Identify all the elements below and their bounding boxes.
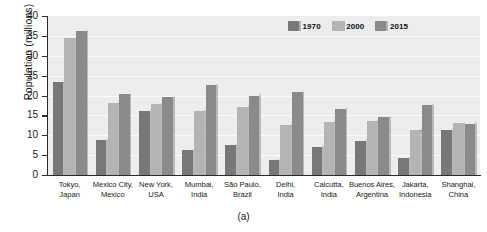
bar [422, 105, 433, 175]
bar-top-edge [389, 116, 391, 118]
bar [398, 158, 409, 175]
bar-fill [119, 94, 130, 175]
y-tick-label: 15 [14, 110, 38, 120]
bar-shadow-edge [173, 97, 175, 175]
y-tick-label: 25 [14, 71, 38, 81]
bar [410, 130, 421, 175]
legend-label: 1970 [303, 22, 321, 31]
bar-fill [151, 104, 162, 175]
bar [76, 31, 87, 175]
bar [465, 124, 476, 175]
bar-fill [335, 109, 346, 175]
bar-fill [206, 85, 217, 175]
legend-item: 1970 [288, 21, 321, 31]
bar-top-edge [346, 107, 348, 109]
x-axis-labels: Tokyo,JapanMexico City,MexicoNew York,US… [48, 180, 480, 208]
y-tick-label: 35 [14, 31, 38, 41]
x-axis-label-line: Shanghai, [431, 180, 486, 190]
bar-group [134, 16, 177, 175]
bar-fill [269, 160, 280, 175]
bar [139, 111, 150, 175]
bar-groups [48, 16, 480, 175]
bar-fill [64, 38, 75, 175]
bar-fill [422, 105, 433, 175]
bar-fill [249, 96, 260, 176]
bar-shadow-edge [130, 94, 132, 175]
bar-group [307, 16, 350, 175]
legend-item: 2000 [332, 21, 365, 31]
bar [64, 38, 75, 175]
bar-shadow-edge [432, 105, 434, 175]
legend-swatch [375, 21, 386, 31]
bar-fill [237, 107, 248, 175]
bar-fill [182, 150, 193, 175]
bar-fill [53, 82, 64, 175]
x-axis-label-line: China [431, 190, 486, 200]
bar [237, 107, 248, 175]
bar [151, 104, 162, 175]
bar-shadow-edge [216, 85, 218, 175]
bar-group [350, 16, 393, 175]
bar-top-edge [432, 104, 434, 106]
legend-swatch [288, 21, 299, 31]
legend-label: 2000 [346, 22, 364, 31]
bar-fill [465, 124, 476, 175]
bar-fill [194, 111, 205, 175]
bar-shadow-edge [303, 92, 305, 175]
bar [441, 130, 452, 175]
bar-fill [367, 121, 378, 175]
y-tick-label: 5 [14, 150, 38, 160]
legend-label: 2015 [390, 22, 408, 31]
bar-top-edge [259, 94, 261, 96]
bar-fill [355, 141, 366, 175]
bar-top-edge [173, 96, 175, 98]
bar-group [264, 16, 307, 175]
bar-fill [312, 147, 323, 175]
bar-group [437, 16, 480, 175]
bar-fill [441, 130, 452, 175]
bar-group [91, 16, 134, 175]
bar-fill [162, 97, 173, 175]
bar-fill [280, 125, 291, 175]
bar-group [221, 16, 264, 175]
bar [225, 145, 236, 175]
bar-shadow-edge [346, 109, 348, 175]
bar [324, 122, 335, 175]
bar-fill [96, 140, 107, 175]
bar-top-edge [475, 122, 477, 124]
bar-top-edge [303, 91, 305, 93]
bar [378, 117, 389, 175]
chart-legend: 197020002015 [288, 21, 408, 31]
bar-shadow-edge [259, 96, 261, 176]
bar-fill [398, 158, 409, 175]
y-tick-label: 30 [14, 51, 38, 61]
population-bar-chart-figure: Population (millions) 0510152025303540 T… [0, 0, 487, 232]
bar-fill [76, 31, 87, 175]
bar-fill [324, 122, 335, 175]
legend-item: 2015 [375, 21, 408, 31]
bar-shadow-edge [87, 31, 89, 175]
bar-top-edge [87, 30, 89, 32]
bar [96, 140, 107, 175]
bar [162, 97, 173, 175]
bar-fill [453, 123, 464, 175]
y-tick-label: 0 [14, 170, 38, 180]
x-axis-label: Shanghai,China [431, 180, 486, 199]
bar-fill [378, 117, 389, 175]
bar [53, 82, 64, 175]
bar [355, 141, 366, 175]
bar-fill [410, 130, 421, 175]
bar-group [178, 16, 221, 175]
bar-group [394, 16, 437, 175]
bar [249, 96, 260, 176]
bar [312, 147, 323, 175]
bar-fill [139, 111, 150, 175]
figure-caption: (a) [0, 211, 487, 222]
bar [194, 111, 205, 175]
bar-top-edge [130, 93, 132, 95]
bar [269, 160, 280, 175]
y-tick-label: 40 [14, 11, 38, 21]
bar [335, 109, 346, 175]
x-axis-line [47, 175, 481, 176]
bar-shadow-edge [475, 124, 477, 175]
